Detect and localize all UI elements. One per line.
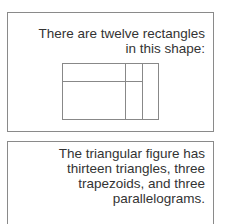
statement-text: There are twelve rectangles in this shap… [15,26,205,56]
statement-line: thirteen triangles, three [15,161,205,176]
statement-text: The triangular figure has thirteen trian… [15,146,205,206]
statement-line: The triangular figure has [15,146,205,161]
statement-line: parallelograms. [15,191,205,206]
rectangles-figure [62,63,159,120]
statement-line: in this shape: [15,41,205,56]
statement-line: There are twelve rectangles [15,26,205,41]
statement-card-rectangles: There are twelve rectangles in this shap… [7,12,214,132]
statement-card-triangles: The triangular figure has thirteen trian… [7,141,214,224]
statement-line: trapezoids, and three [15,176,205,191]
